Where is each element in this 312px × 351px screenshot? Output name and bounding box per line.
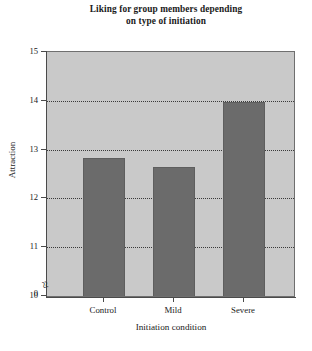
chart-title: Liking for group members depending on ty…	[36, 4, 296, 27]
x-tick-mark-control	[103, 297, 104, 302]
y-tick-mark-12	[41, 197, 46, 198]
bar-severe	[223, 102, 265, 296]
y-tick-label-11: 11	[8, 242, 38, 251]
y-axis-line	[46, 51, 47, 298]
bar-mild	[153, 167, 195, 296]
y-tick-mark-14	[41, 100, 46, 101]
x-tick-label-mild: Mild	[138, 305, 208, 315]
y-tick-label-14: 14	[8, 96, 38, 105]
y-tick-mark-13	[41, 149, 46, 150]
x-tick-mark-mild	[173, 297, 174, 302]
chart-title-line-1: Liking for group members depending	[36, 4, 296, 16]
bar-chart-figure: Liking for group members depending on ty…	[0, 0, 312, 351]
x-axis-title: Initiation condition	[46, 322, 296, 332]
x-tick-label-control: Control	[68, 305, 138, 315]
y-tick-label-15: 15	[8, 47, 38, 56]
y-tick-mark-11	[41, 246, 46, 247]
y-tick-mark-10	[41, 295, 46, 296]
x-axis-line	[46, 297, 296, 298]
y-tick-mark-15	[41, 51, 46, 52]
x-tick-mark-severe	[243, 297, 244, 302]
plot-area	[46, 51, 295, 297]
x-tick-label-severe: Severe	[208, 305, 278, 315]
y-axis-title: Attraction	[7, 120, 17, 200]
y-axis-origin-label: 0	[8, 289, 38, 298]
chart-title-line-2: on type of initiation	[36, 16, 296, 28]
bar-control	[83, 158, 125, 296]
